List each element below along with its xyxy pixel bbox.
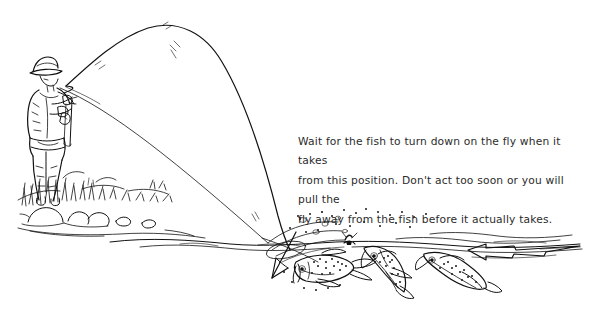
take-arrow xyxy=(272,232,296,278)
angler-figure xyxy=(28,57,77,206)
shore-rocks xyxy=(18,208,205,238)
fly-line xyxy=(60,87,268,243)
dry-fly xyxy=(342,232,357,245)
fish-center xyxy=(361,246,414,298)
illustration-scene: Wait for the fish to turn down on the fl… xyxy=(0,0,594,328)
fish-right xyxy=(415,252,502,292)
water-surface xyxy=(110,233,582,259)
fish-left xyxy=(293,249,376,287)
caption-text: Wait for the fish to turn down on the fl… xyxy=(298,132,578,229)
fly-rod xyxy=(66,22,290,250)
